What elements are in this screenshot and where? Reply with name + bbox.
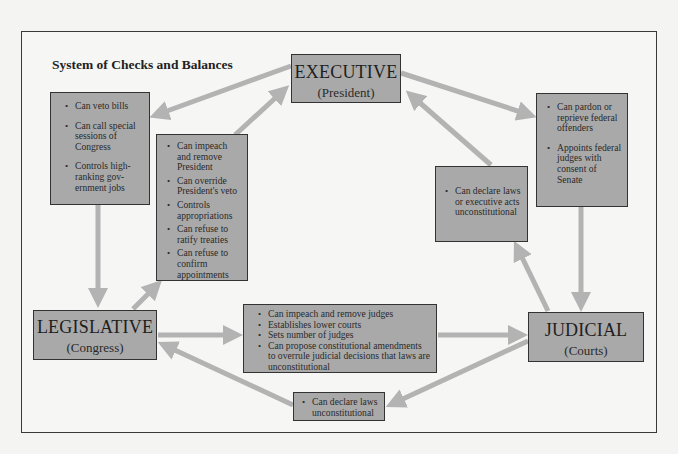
legislative-sublabel: (Congress) [34,340,156,356]
check-item: Can veto bills [65,101,141,112]
judicial-sublabel: (Courts) [529,343,643,359]
legislative-label: LEGISLATIVE [34,317,156,338]
arrow-declare-box-to-executive [411,95,491,165]
check-item: Controls high-ranking gov-ernment jobs [65,161,141,193]
legislative-checks-box: Can impeach and remove President Can ove… [156,134,248,281]
check-item: Can call special sessions of Congress [65,121,141,153]
check-item: Can propose constitutional amendments to… [258,341,430,373]
check-item: Can declare laws or executive acts uncon… [445,186,524,218]
judicial-label: JUDICIAL [529,320,643,341]
arrow-executive-to-exec-checks [156,66,291,115]
judicial-legislative-checks-box: Can declare laws unconstitutional [293,392,385,421]
arrow-leg-checks-to-executive [235,90,284,135]
check-item: Can pardon or reprieve federal offenders [547,102,623,134]
check-item: Can refuse to confirm appointments [167,248,243,280]
legislative-box: LEGISLATIVE (Congress) [33,310,157,360]
judicial-executive-checks-list: Can declare laws or executive acts uncon… [445,186,524,218]
executive-sublabel: (President) [292,85,400,101]
check-item: Can declare laws unconstitutional [302,397,380,418]
judicial-legislative-checks-list: Can declare laws unconstitutional [302,397,380,418]
check-item: Can impeach and remove President [167,141,243,173]
check-item: Can refuse to ratify treaties [167,224,243,245]
executive-label: EXECUTIVE [292,62,400,83]
judicial-box: JUDICIAL (Courts) [528,312,644,362]
judicial-executive-checks-box: Can declare laws or executive acts uncon… [435,166,528,242]
legislative-judicial-checks-list: Can impeach and remove judges Establishe… [258,309,430,373]
executive-checks-list: Can veto bills Can call special sessions… [65,101,141,193]
arrow-executive-to-pardon-box [401,73,530,115]
executive-judicial-checks-box: Can pardon or reprieve federal offenders… [536,93,628,207]
executive-box: EXECUTIVE (President) [291,54,401,103]
check-item: Controls appropriations [167,200,243,221]
legislative-judicial-checks-box: Can impeach and remove judges Establishe… [243,304,437,373]
executive-judicial-checks-list: Can pardon or reprieve federal offenders… [547,102,623,185]
arrow-judicial-to-declare-box [517,247,548,311]
arrow-legislative-to-leg-checks [133,285,157,309]
check-item: Appoints federal judges with consent of … [547,143,623,185]
check-item: Can override President's veto [167,176,243,197]
executive-checks-box: Can veto bills Can call special sessions… [50,92,150,205]
legislative-checks-list: Can impeach and remove President Can ove… [167,141,243,280]
check-item: Can impeach and remove judges [258,309,430,320]
